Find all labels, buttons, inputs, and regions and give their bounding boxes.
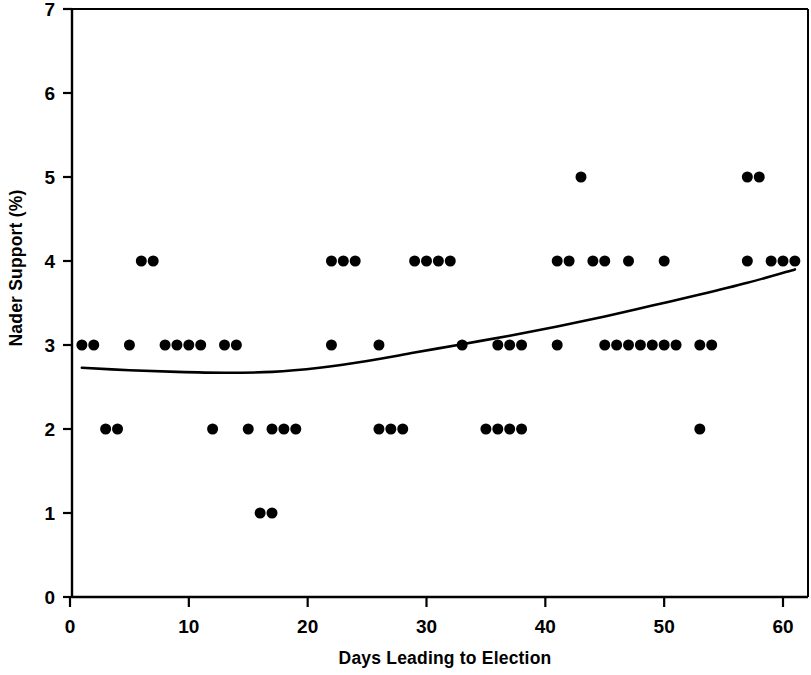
- y-tick-label-7: 7: [44, 0, 55, 20]
- data-point: [207, 424, 218, 435]
- data-point: [409, 256, 420, 267]
- data-point: [148, 256, 159, 267]
- x-tick-label-20: 20: [297, 616, 318, 637]
- x-tick-label-0: 0: [65, 616, 76, 637]
- data-point: [742, 256, 753, 267]
- data-point: [575, 172, 586, 183]
- data-point: [243, 424, 254, 435]
- data-point: [504, 340, 515, 351]
- data-point: [433, 256, 444, 267]
- data-point: [659, 340, 670, 351]
- data-point: [278, 424, 289, 435]
- data-point: [350, 256, 361, 267]
- data-point: [623, 256, 634, 267]
- data-point: [694, 424, 705, 435]
- data-point: [457, 340, 468, 351]
- x-tick-label-30: 30: [416, 616, 437, 637]
- data-point: [694, 340, 705, 351]
- data-point: [255, 508, 266, 519]
- y-tick-label-4: 4: [44, 251, 55, 272]
- y-tick-label-0: 0: [44, 587, 55, 608]
- data-point: [480, 424, 491, 435]
- data-point: [754, 172, 765, 183]
- data-point: [445, 256, 456, 267]
- x-tick-label-40: 40: [535, 616, 556, 637]
- x-axis-title: Days Leading to Election: [339, 648, 552, 668]
- x-tick-label-50: 50: [654, 616, 675, 637]
- x-tick-label-60: 60: [772, 616, 793, 637]
- data-point: [564, 256, 575, 267]
- data-point: [647, 340, 658, 351]
- data-point: [112, 424, 123, 435]
- data-point: [671, 340, 682, 351]
- data-point: [290, 424, 301, 435]
- data-point: [160, 340, 171, 351]
- data-point: [599, 340, 610, 351]
- data-point: [504, 424, 515, 435]
- data-point: [124, 340, 135, 351]
- data-point: [492, 340, 503, 351]
- chart-figure: 012345670102030405060Days Leading to Ele…: [0, 0, 811, 675]
- data-point: [338, 256, 349, 267]
- y-tick-label-5: 5: [44, 167, 55, 188]
- y-tick-label-6: 6: [44, 83, 55, 104]
- data-point: [492, 424, 503, 435]
- data-point: [326, 256, 337, 267]
- y-tick-label-2: 2: [44, 419, 55, 440]
- data-point: [516, 340, 527, 351]
- data-point: [267, 424, 278, 435]
- data-point: [599, 256, 610, 267]
- data-point: [778, 256, 789, 267]
- data-point: [397, 424, 408, 435]
- data-point: [766, 256, 777, 267]
- data-point: [552, 256, 563, 267]
- data-point: [88, 340, 99, 351]
- data-point: [231, 340, 242, 351]
- data-point: [421, 256, 432, 267]
- data-point: [373, 424, 384, 435]
- x-tick-label-10: 10: [178, 616, 199, 637]
- data-point: [195, 340, 206, 351]
- data-point: [552, 340, 563, 351]
- data-point: [659, 256, 670, 267]
- data-point: [516, 424, 527, 435]
- scatter-plot-canvas: 012345670102030405060Days Leading to Ele…: [0, 0, 811, 675]
- data-point: [706, 340, 717, 351]
- data-point: [635, 340, 646, 351]
- data-point: [136, 256, 147, 267]
- data-point: [373, 340, 384, 351]
- y-axis-title: Nader Support (%): [6, 189, 26, 346]
- data-point: [76, 340, 87, 351]
- data-point: [742, 172, 753, 183]
- data-point: [100, 424, 111, 435]
- data-point: [171, 340, 182, 351]
- data-point: [326, 340, 337, 351]
- data-point: [183, 340, 194, 351]
- data-point: [611, 340, 622, 351]
- data-point: [789, 256, 800, 267]
- data-point: [385, 424, 396, 435]
- data-point: [267, 508, 278, 519]
- data-point: [587, 256, 598, 267]
- y-tick-label-3: 3: [44, 335, 55, 356]
- y-tick-label-1: 1: [44, 503, 55, 524]
- data-point: [219, 340, 230, 351]
- data-point: [623, 340, 634, 351]
- trend-line: [82, 269, 795, 372]
